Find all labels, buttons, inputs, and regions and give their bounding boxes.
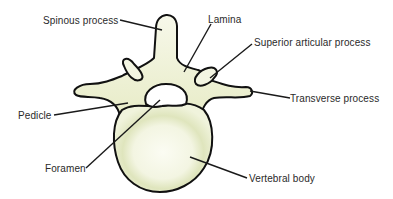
leader-transverse-process (250, 91, 290, 98)
vertebra-diagram: Spinous process Lamina Superior articula… (0, 0, 393, 199)
label-foramen: Foramen (45, 163, 86, 175)
label-transverse-process: Transverse process (290, 93, 379, 105)
label-spinous-process: Spinous process (43, 15, 118, 27)
leader-superior-articular-process (210, 44, 252, 78)
label-lamina: Lamina (208, 14, 241, 26)
label-vertebral-body: Vertebral body (249, 173, 315, 185)
label-pedicle: Pedicle (18, 110, 52, 122)
leader-lamina (184, 24, 211, 72)
label-superior-articular-process: Superior articular process (254, 37, 371, 49)
vertebral-body-shape (114, 104, 212, 193)
vertebral-foramen-shape (145, 84, 187, 107)
